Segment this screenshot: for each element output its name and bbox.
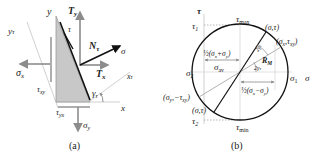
figure-b: τ τ1 τmax (σ,τ) (σx,τxy) ½(σx+σy) σav 2γ…: [163, 6, 310, 152]
label-sigma-x: σx: [16, 67, 25, 80]
label-x: x: [120, 103, 125, 113]
label-point-sigma-tau-bottom: (σ,τ): [192, 106, 206, 115]
label-point-sigma-tau-top: (σ,τ): [265, 23, 279, 32]
label-sigma-y: σy: [83, 120, 90, 131]
label-sigma-av: σav: [214, 62, 224, 73]
label-sigma: σ: [121, 46, 126, 56]
label-t-x: Tx: [96, 68, 106, 81]
label-n-tau: Nτ: [88, 40, 100, 53]
label-tau-yx: τyx: [56, 108, 65, 118]
label-tau-1: τ1: [192, 21, 198, 32]
label-point-sigma-x-tau-xy: (σx,τxy): [276, 37, 298, 47]
label-r-m: RM: [261, 56, 273, 66]
gamma-angle-arc: [100, 93, 103, 102]
label-half-sum: ½(σx+σy): [203, 49, 231, 59]
label-x-tau: xτ: [126, 72, 134, 81]
stress-diagram: y yτ Ty τ Nτ σ σx Tx xτ τxy γτ x τyx σy …: [0, 0, 324, 162]
label-tau: τ: [68, 25, 72, 34]
label-tau-2: τ2: [192, 116, 198, 127]
label-y: y: [46, 6, 52, 17]
label-t-y: Ty: [68, 5, 78, 18]
label-tau-max: τmax: [236, 14, 250, 25]
caption-b: (b): [231, 140, 243, 152]
label-gamma-tau: γτ: [92, 88, 99, 99]
label-tau-xy: τxy: [37, 85, 46, 95]
label-sigma-axis: σ: [305, 73, 310, 83]
y-tau-axis: [27, 22, 58, 108]
stress-element-triangle: [56, 16, 90, 102]
label-angle-2gamma-t: 2γτ: [254, 65, 261, 71]
label-tau-axis: τ: [197, 6, 202, 16]
label-sigma-1: σ1: [290, 73, 297, 84]
sigma-arrow: [80, 46, 120, 65]
label-point-sigma-y-neg-tau-xy: (σy,−τxy): [163, 93, 190, 103]
figure-a: y yτ Ty τ Nτ σ σx Tx xτ τxy γτ x τyx σy …: [7, 5, 134, 152]
label-y-tau: yτ: [7, 26, 15, 36]
label-angle-2gamma: 2γτ: [254, 43, 263, 52]
label-tau-min: τmin: [236, 122, 249, 133]
label-half-diff: ½(σx−σy): [241, 86, 269, 96]
caption-a: (a): [69, 140, 80, 152]
